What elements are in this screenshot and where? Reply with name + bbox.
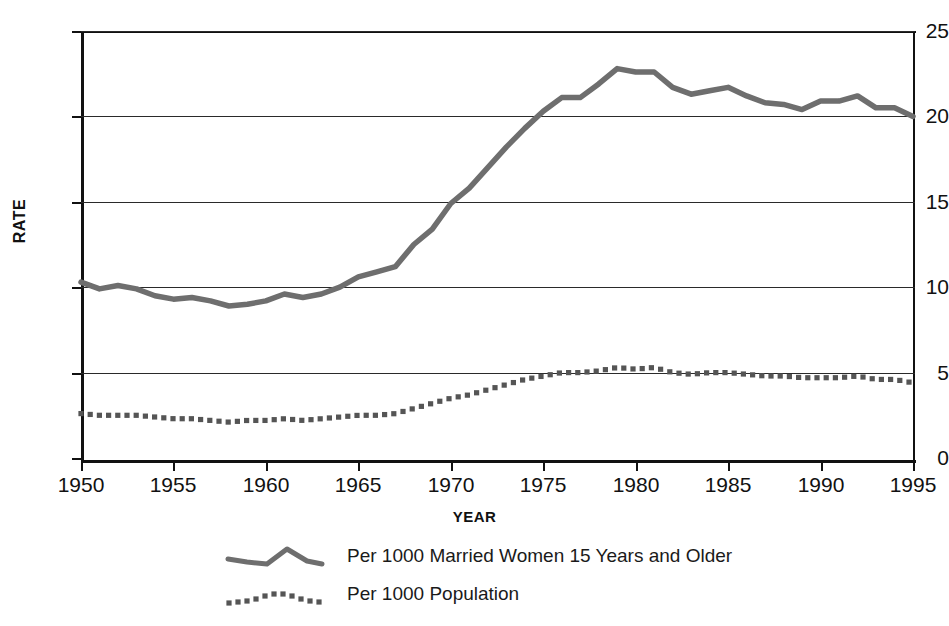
- x-tick-mark-1990: [821, 460, 823, 471]
- legend-label-married-women: Per 1000 Married Women 15 Years and Olde…: [347, 544, 732, 568]
- chart-legend: Per 1000 Married Women 15 Years and Olde…: [225, 540, 845, 616]
- x-tick-label-1950: 1950: [36, 474, 126, 496]
- plot-right-border: [913, 31, 915, 460]
- x-axis-title: YEAR: [0, 508, 949, 525]
- gridline-25: [81, 31, 915, 32]
- y-tick-mark-10: [72, 287, 81, 289]
- y-axis-title: RATE: [11, 181, 29, 261]
- x-tick-mark-1955: [173, 460, 175, 471]
- x-tick-label-1980: 1980: [591, 474, 681, 496]
- legend-entry-population: Per 1000 Population: [225, 578, 845, 616]
- solid-line-swatch: [225, 542, 325, 572]
- x-tick-label-1970: 1970: [406, 474, 496, 496]
- y-tick-label-25: 25: [885, 20, 949, 41]
- x-tick-mark-1970: [451, 460, 453, 471]
- x-tick-label-1965: 1965: [313, 474, 403, 496]
- x-tick-label-1990: 1990: [776, 474, 866, 496]
- y-tick-mark-5: [72, 373, 81, 375]
- plot-area: [81, 31, 916, 463]
- x-tick-label-1955: 1955: [128, 474, 218, 496]
- y-tick-label-10: 10: [885, 276, 949, 297]
- x-tick-mark-1985: [728, 460, 730, 471]
- dotted-line-swatch: [225, 580, 325, 610]
- y-tick-label-15: 15: [885, 191, 949, 212]
- y-tick-mark-15: [72, 202, 81, 204]
- x-tick-mark-1965: [358, 460, 360, 471]
- gridline-5: [81, 373, 915, 374]
- gridline-10: [81, 287, 915, 288]
- gridline-20: [81, 116, 915, 117]
- y-tick-label-0: 0: [885, 447, 949, 468]
- x-tick-mark-1995: [913, 460, 915, 471]
- divorce-rate-line-chart: RATE 2520151050 195019551960196519701975…: [0, 0, 949, 626]
- x-tick-label-1960: 1960: [221, 474, 311, 496]
- y-tick-mark-0: [72, 458, 81, 460]
- legend-entry-married-women: Per 1000 Married Women 15 Years and Olde…: [225, 540, 845, 578]
- x-tick-label-1985: 1985: [683, 474, 773, 496]
- x-tick-mark-1950: [81, 460, 83, 471]
- y-tick-label-20: 20: [885, 105, 949, 126]
- y-tick-mark-20: [72, 116, 81, 118]
- x-tick-label-1995: 1995: [868, 474, 949, 496]
- y-tick-label-5: 5: [885, 362, 949, 383]
- gridline-15: [81, 202, 915, 203]
- y-tick-mark-25: [72, 31, 81, 33]
- x-tick-mark-1960: [266, 460, 268, 471]
- x-tick-mark-1980: [636, 460, 638, 471]
- x-tick-label-1975: 1975: [498, 474, 588, 496]
- legend-label-population: Per 1000 Population: [347, 582, 519, 606]
- x-tick-mark-1975: [543, 460, 545, 471]
